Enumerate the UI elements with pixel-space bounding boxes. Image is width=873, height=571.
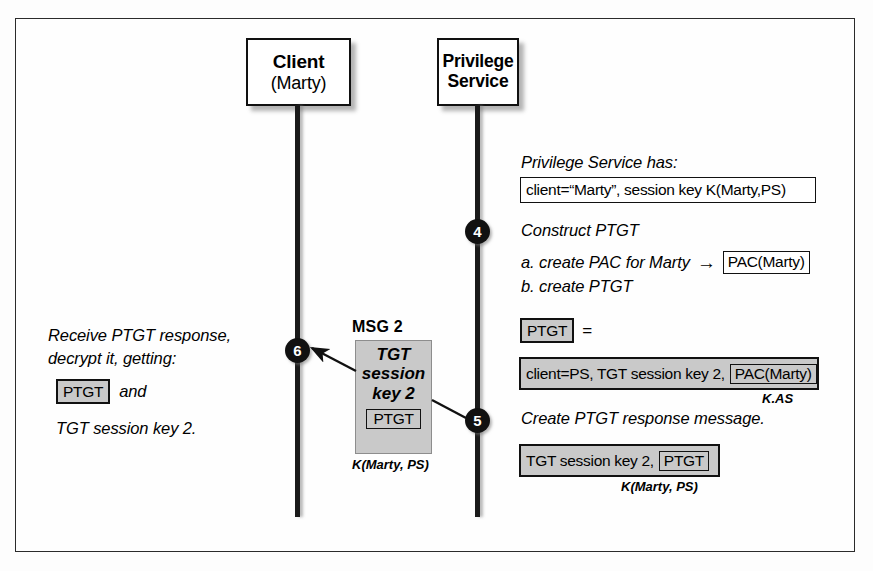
client-ptgt-token: PTGT <box>56 379 110 404</box>
diagram-frame <box>15 18 855 552</box>
msg2-body-line-1: TGT <box>377 345 411 364</box>
step-marker-5: 5 <box>465 408 490 433</box>
ptgt-token: PTGT <box>520 318 574 343</box>
client-receive-line2: decrypt it, getting: <box>48 348 176 370</box>
ptgt-definition-line: PTGT = <box>520 318 592 343</box>
ptgt-response-key-label: K(Marty, PS) <box>621 479 698 494</box>
actor-client: Client (Marty) <box>246 38 351 106</box>
pac-marty-token: PAC(Marty) <box>723 251 810 273</box>
msg2-label: MSG 2 <box>352 318 403 336</box>
client-receive-line1: Receive PTGT response, <box>48 325 231 347</box>
actor-ps-line2: Service <box>448 72 509 92</box>
actor-client-line2: (Marty) <box>271 73 327 93</box>
actor-ps-line1: Privilege <box>442 52 513 72</box>
msg2-encryption-key-label: K(Marty, PS) <box>352 457 429 472</box>
step5-title: Create PTGT response message. <box>521 408 765 430</box>
ps-state-box: client=“Marty”, session key K(Marty,PS) <box>520 177 816 203</box>
client-and-word: and <box>119 381 146 403</box>
actor-privilege-service: Privilege Service <box>437 38 519 106</box>
ptgt-response-text: TGT session key 2, <box>526 452 654 470</box>
lifeline-privilege-service <box>475 105 480 517</box>
step4-title: Construct PTGT <box>521 220 639 242</box>
step-marker-6: 6 <box>285 338 310 363</box>
client-receive-line3: TGT session key 2. <box>56 418 196 440</box>
diagram-canvas: Client (Marty) Privilege Service Privile… <box>0 0 873 571</box>
ps-state-heading: Privilege Service has: <box>521 152 677 174</box>
ptgt-contents-text: client=PS, TGT session key 2, <box>526 365 725 383</box>
msg2-inner-ptgt-token: PTGT <box>366 409 420 429</box>
actor-client-line1: Client <box>273 51 325 72</box>
ptgt-response-box: TGT session key 2, PTGT <box>519 444 720 477</box>
client-ptgt-line: PTGT and <box>56 379 146 404</box>
lifeline-client <box>295 105 300 517</box>
ptgt-contents-box: client=PS, TGT session key 2, PAC(Marty) <box>519 357 819 390</box>
ptgt-contents-pac-token: PAC(Marty) <box>730 364 817 384</box>
msg2-body-line-2: session <box>362 364 425 383</box>
step4-a-text: a. create PAC for Marty <box>521 252 690 274</box>
ptgt-response-token: PTGT <box>659 451 709 471</box>
step4-line-a: a. create PAC for Marty → PAC(Marty) <box>521 250 810 275</box>
right-arrow-icon: → <box>697 250 716 275</box>
ptgt-encryption-key-label: K.AS <box>762 391 793 406</box>
msg2-box: TGT session key 2 PTGT <box>355 340 432 454</box>
step-marker-4: 4 <box>465 219 490 244</box>
msg2-body-line-3: key 2 <box>372 384 415 403</box>
step4-line-b: b. create PTGT <box>521 276 632 298</box>
equals-sign: = <box>582 321 592 341</box>
